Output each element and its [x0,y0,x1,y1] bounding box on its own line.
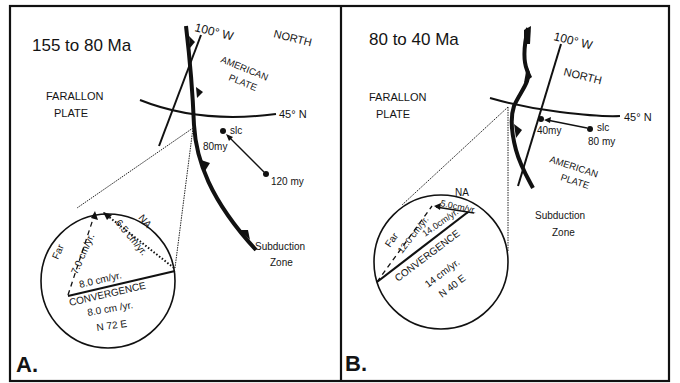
north-label: NORTH [563,65,604,86]
age-far-label: 120 my [271,176,304,187]
convergence-direction-label: N 72 E [96,318,128,333]
north-label: NORTH [273,27,314,48]
arrowhead-icon [103,212,112,220]
arrowhead-icon [544,117,551,123]
panel-b-time-range: 80 to 40 Ma [369,30,459,49]
projection-line [175,128,193,268]
na-label: NA [136,212,154,230]
age-near-label: 40my [537,125,561,136]
slc-origin-point-icon [587,126,593,132]
subduction-zone-label: Subduction [535,210,585,221]
farallon-plate-label: FARALLON [46,90,104,102]
figure: 155 to 80 Ma 100° W NORTH AMERICAN PLATE… [0,0,680,383]
slc-label: slc [597,122,609,133]
panel-a-letter: A. [16,352,38,377]
panel-b-letter: B. [345,351,367,376]
farallon-plate-label: PLATE [376,108,410,120]
subduction-zone-label: Zone [552,227,575,238]
subduction-tooth-icon [524,26,531,44]
slc-label: slc [230,125,242,136]
far-rate-label: 7.0 cm/yr. [69,232,97,276]
projection-line [77,128,193,208]
panel-b: 80 to 40 Ma 100° W NORTH AMERICAN PLATE … [345,26,652,376]
parallel-line [140,100,276,117]
slc-point-icon [538,116,544,122]
subduction-tooth-icon [189,36,195,48]
panel-a: 155 to 80 Ma 100° W NORTH AMERICAN PLATE… [16,20,313,377]
subduction-zone-label: Subduction [255,241,305,252]
farallon-plate-label: FARALLON [369,91,427,103]
subduction-zone-label: Zone [270,257,293,268]
age-near-label: 80my [203,141,227,152]
slc-motion-arrow [228,136,264,172]
parallel-label: 45° N [279,108,307,120]
parallel-label: 45° N [624,111,652,123]
farallon-plate-label: PLATE [54,107,88,119]
age-far-label: 80 my [588,136,615,147]
parallel-line [490,98,620,116]
subduction-tooth-icon [196,87,203,98]
na-label: NA [455,187,469,198]
panel-a-time-range: 155 to 80 Ma [32,36,132,55]
slc-point-icon [220,128,226,134]
subduction-tooth-icon [514,124,522,138]
